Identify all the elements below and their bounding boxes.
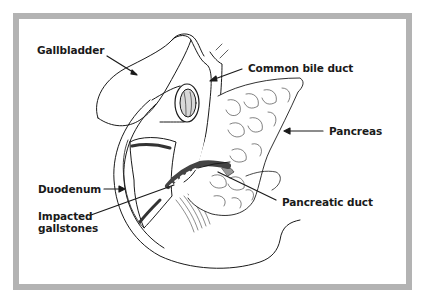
label-impacted-gallstones-line1: Impacted xyxy=(38,210,93,222)
label-gallbladder: Gallbladder xyxy=(37,44,104,56)
label-common-bile-duct: Common bile duct xyxy=(248,62,353,74)
pancreas-shape xyxy=(188,78,303,215)
label-pancreatic-duct: Pancreatic duct xyxy=(282,196,373,208)
label-pancreas: Pancreas xyxy=(329,125,382,137)
label-impacted-gallstones-line2: gallstones xyxy=(38,222,98,234)
label-duodenum: Duodenum xyxy=(38,183,101,195)
